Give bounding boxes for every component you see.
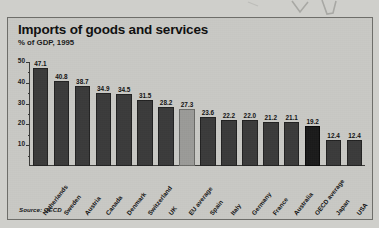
- bar-value-label: 19.2: [306, 118, 318, 125]
- bar-value-label: 34.9: [97, 85, 109, 92]
- chart-frame: Imports of goods and services % of GDP, …: [7, 17, 373, 220]
- bar-value-label: 22.2: [223, 112, 235, 119]
- bar[interactable]: [284, 122, 299, 166]
- bar-value-label: 23.6: [202, 109, 214, 116]
- chart-title: Imports of goods and services: [18, 22, 208, 37]
- source-note: Source: OECD: [19, 206, 62, 213]
- bar-group[interactable]: 38.7: [75, 62, 90, 166]
- x-category-label: Italy: [229, 202, 242, 216]
- plot-area: 47.140.838.734.934.531.528.227.323.622.2…: [30, 62, 365, 166]
- x-category-label: Australia: [292, 191, 314, 217]
- bar-value-label: 38.7: [76, 78, 88, 85]
- bar[interactable]: [54, 81, 69, 166]
- bar-value-label: 34.5: [118, 86, 130, 93]
- bar[interactable]: [179, 109, 194, 166]
- x-category-label: USA: [355, 202, 369, 217]
- tick-mark: [28, 72, 31, 73]
- tick-mark: [26, 124, 30, 125]
- bar[interactable]: [137, 100, 152, 166]
- bar-group[interactable]: 19.2: [305, 62, 320, 166]
- y-tick-label: 30: [18, 99, 25, 106]
- bar-group[interactable]: 34.9: [96, 62, 111, 166]
- x-category-label: Austria: [83, 195, 102, 216]
- bar-value-label: 28.2: [160, 99, 172, 106]
- bar-group[interactable]: 21.1: [284, 62, 299, 166]
- bar[interactable]: [158, 107, 173, 166]
- bar[interactable]: [75, 86, 90, 166]
- bar-value-label: 21.2: [265, 114, 277, 121]
- x-category-label: Spain: [208, 198, 224, 216]
- bar-value-label: 27.3: [181, 101, 193, 108]
- x-category-label: Denmark: [125, 191, 147, 217]
- x-category-label: France: [271, 196, 289, 217]
- tick-mark: [28, 114, 31, 115]
- bar[interactable]: [96, 93, 111, 166]
- bar-group[interactable]: 34.5: [116, 62, 131, 166]
- x-category-label: Germany: [250, 190, 272, 216]
- tick-mark: [26, 104, 30, 105]
- bar[interactable]: [263, 122, 278, 166]
- bar-group[interactable]: 31.5: [137, 62, 152, 166]
- bar-group[interactable]: 27.3: [179, 62, 194, 166]
- tick-mark: [26, 145, 30, 146]
- bar-value-label: 12.4: [327, 132, 339, 139]
- chart-header: Imports of goods and services % of GDP, …: [18, 22, 208, 48]
- bar[interactable]: [347, 140, 362, 166]
- x-category-label: Canada: [104, 194, 124, 216]
- bar[interactable]: [326, 140, 341, 166]
- tick-mark: [26, 83, 30, 84]
- bar[interactable]: [200, 117, 215, 166]
- chart-subtitle: % of GDP, 1995: [18, 38, 208, 48]
- y-tick-label: 40: [18, 78, 25, 85]
- bar-value-label: 22.0: [244, 112, 256, 119]
- bar-group[interactable]: 28.2: [158, 62, 173, 166]
- bar-value-label: 12.4: [348, 132, 360, 139]
- bar-value-label: 40.8: [55, 73, 67, 80]
- bar-value-label: 31.5: [139, 92, 151, 99]
- bar-group[interactable]: 12.4: [326, 62, 341, 166]
- bar[interactable]: [33, 68, 48, 166]
- bar[interactable]: [221, 120, 236, 166]
- bar[interactable]: [305, 126, 320, 166]
- bar-group[interactable]: 12.4: [347, 62, 362, 166]
- bar-group[interactable]: 40.8: [54, 62, 69, 166]
- bar-group[interactable]: 22.0: [242, 62, 257, 166]
- y-tick-label: 10: [18, 140, 25, 147]
- x-category-label: UK: [167, 205, 178, 216]
- bar[interactable]: [116, 94, 131, 166]
- tick-mark: [26, 62, 30, 63]
- bar-group[interactable]: 23.6: [200, 62, 215, 166]
- tick-mark: [28, 156, 31, 157]
- bar-series: 47.140.838.734.934.531.528.227.323.622.2…: [30, 62, 365, 166]
- bar-group[interactable]: 22.2: [221, 62, 236, 166]
- tick-mark: [28, 135, 31, 136]
- x-category-label: Sweden: [62, 193, 82, 216]
- y-tick-label: 50: [18, 57, 25, 64]
- bar-value-label: 47.1: [34, 60, 46, 67]
- bar-value-label: 21.1: [285, 114, 297, 121]
- bar[interactable]: [242, 120, 257, 166]
- bar-group[interactable]: 21.2: [263, 62, 278, 166]
- y-tick-label: 20: [18, 119, 25, 126]
- tick-mark: [28, 93, 31, 94]
- x-category-label: Japan: [334, 198, 351, 217]
- bar-group[interactable]: 47.1: [33, 62, 48, 166]
